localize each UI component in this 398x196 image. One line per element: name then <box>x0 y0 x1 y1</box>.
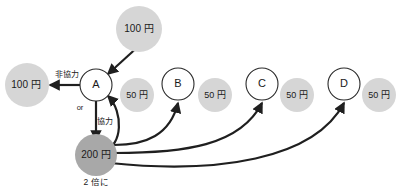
player-node-c: C <box>246 68 278 100</box>
player-d-label: D <box>340 77 348 89</box>
payoff-100-yen-node: 100 円 <box>5 63 49 107</box>
player-node-d: D <box>328 68 360 100</box>
edge-label-alternative: or <box>77 103 84 112</box>
edge-label-defect: 非協力 <box>55 69 79 79</box>
edge-label-cooperate: 協力 <box>97 116 113 126</box>
player-c-label: C <box>258 77 266 89</box>
payout-d-label: 50 円 <box>368 90 390 100</box>
pot-200-yen-node: 200 円 2 倍に <box>75 134 117 187</box>
diagram-canvas: 100 円 100 円 A 50 円 B 50 円 <box>0 0 398 196</box>
payout-node-d: 50 円 <box>362 78 396 112</box>
endowment-100-yen-label: 100 円 <box>124 23 153 34</box>
endowment-100-yen-node: 100 円 <box>116 6 162 52</box>
payout-a-label: 50 円 <box>126 90 148 100</box>
payoff-100-yen-label: 100 円 <box>11 79 40 90</box>
payout-node-a: 50 円 <box>120 78 154 112</box>
player-node-b: B <box>162 68 194 100</box>
diagram-svg: 100 円 100 円 A 50 円 B 50 円 <box>0 0 398 196</box>
player-b-label: B <box>174 77 181 89</box>
pot-200-yen-label: 200 円 <box>81 149 110 160</box>
payout-c-label: 50 円 <box>286 90 308 100</box>
payout-node-c: 50 円 <box>280 78 314 112</box>
player-a-label: A <box>92 78 100 90</box>
payout-node-b: 50 円 <box>198 78 232 112</box>
edge-pot-to-d <box>110 103 344 166</box>
player-node-a: A <box>80 69 112 101</box>
pot-200-yen-caption: 2 倍に <box>83 177 108 187</box>
payout-b-label: 50 円 <box>204 90 226 100</box>
